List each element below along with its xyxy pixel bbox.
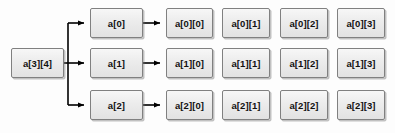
array-cell-label-1-3: a[1][3] <box>346 58 375 69</box>
array-root-node[interactable]: a[3][4] <box>11 48 64 78</box>
array-cell-label-0-1: a[0][1] <box>231 18 260 29</box>
array-cell-1-2[interactable]: a[1][2] <box>280 48 328 78</box>
array-cell-0-1[interactable]: a[0][1] <box>222 8 270 38</box>
array-cell-label-1-0: a[1][0] <box>175 58 204 69</box>
array-cell-label-2-1: a[2][1] <box>231 100 260 111</box>
row-pointer-label-0: a[0] <box>108 18 125 29</box>
array-cell-2-2[interactable]: a[2][2] <box>280 90 328 120</box>
row-pointer-node-0[interactable]: a[0] <box>90 8 143 38</box>
row-pointer-label-2: a[2] <box>108 100 125 111</box>
row-pointer-label-1: a[1] <box>108 58 125 69</box>
array-cell-label-2-2: a[2][2] <box>289 100 318 111</box>
array-cell-label-0-0: a[0][0] <box>175 18 204 29</box>
array-cell-1-1[interactable]: a[1][1] <box>222 48 270 78</box>
array-diagram-canvas: a[3][4] a[0] a[1] a[2] a[0][0] a[0][1] a… <box>0 0 395 133</box>
array-cell-2-0[interactable]: a[2][0] <box>166 90 213 120</box>
array-root-label: a[3][4] <box>23 58 52 69</box>
array-cell-label-1-2: a[1][2] <box>289 58 318 69</box>
array-cell-1-0[interactable]: a[1][0] <box>166 48 213 78</box>
array-cell-label-0-3: a[0][3] <box>346 18 375 29</box>
array-cell-2-3[interactable]: a[2][3] <box>337 90 385 120</box>
array-cell-2-1[interactable]: a[2][1] <box>222 90 270 120</box>
array-cell-0-0[interactable]: a[0][0] <box>166 8 213 38</box>
array-cell-label-2-0: a[2][0] <box>175 100 204 111</box>
array-cell-0-2[interactable]: a[0][2] <box>280 8 328 38</box>
array-cell-0-3[interactable]: a[0][3] <box>337 8 385 38</box>
array-cell-label-1-1: a[1][1] <box>231 58 260 69</box>
row-pointer-node-2[interactable]: a[2] <box>90 90 143 120</box>
row-pointer-node-1[interactable]: a[1] <box>90 48 143 78</box>
array-cell-1-3[interactable]: a[1][3] <box>337 48 385 78</box>
array-cell-label-0-2: a[0][2] <box>289 18 318 29</box>
array-cell-label-2-3: a[2][3] <box>346 100 375 111</box>
